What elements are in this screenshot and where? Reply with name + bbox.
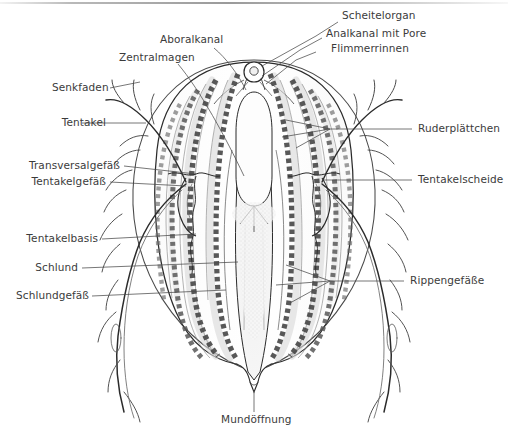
label-senkfaden: Senkfaden [52, 82, 106, 93]
label-schlundgefaess: Schlundgefäß [16, 290, 88, 301]
label-zentralmagen: Zentralmagen [119, 52, 195, 63]
senkfaden-l9 [102, 244, 120, 272]
senkfaden-r9 [388, 244, 406, 272]
label-scheitelorgan: Scheitelorgan [342, 10, 416, 21]
senkfaden-r8 [386, 214, 408, 240]
statocyst [250, 67, 258, 75]
tentakel-right-loop [387, 324, 397, 352]
senkfaden-l7 [104, 190, 126, 212]
senkfaden-l4 [120, 135, 148, 146]
label-mundoeffnung: Mundöffnung [221, 414, 292, 425]
leader-senkfaden [110, 82, 140, 88]
label-tentakelscheide: Tentakelscheide [418, 174, 503, 185]
label-tentakel: Tentakel [44, 117, 106, 128]
senkfaden-l6 [106, 170, 132, 190]
figure-canvas: Aboralkanal Zentralmagen Scheitelorgan A… [0, 0, 508, 445]
label-aboralkanal: Aboralkanal [160, 34, 223, 45]
label-schlund: Schlund [26, 262, 78, 273]
stomach-base-stipple [232, 202, 276, 226]
senkfaden-r13 [368, 392, 384, 422]
senkfaden-l8 [100, 214, 122, 240]
label-rippengefaesse: Rippengefäße [410, 275, 484, 286]
ctenophore-illustration [0, 0, 508, 445]
senkfaden-l13 [124, 392, 140, 422]
label-tentakelgefaess: Tentakelgefäß [22, 176, 106, 187]
senkfaden-r10 [390, 280, 402, 310]
central-stomach-zentralmagen [236, 92, 272, 206]
senkfaden-l1 [133, 80, 140, 110]
senkfaden-r1 [368, 80, 375, 110]
label-analkanal-mit-pore: Analkanal mit Pore [326, 28, 426, 39]
label-transversalgefaess: Transversalgefäß [16, 160, 120, 171]
label-ruderplaettchen: Ruderplättchen [418, 123, 500, 134]
senkfaden-r4 [360, 135, 388, 146]
label-flimmerrinnen: Flimmerrinnen [331, 43, 409, 54]
senkfaden-r3 [354, 94, 357, 124]
senkfaden-r7 [382, 190, 404, 212]
label-tentakelbasis: Tentakelbasis [22, 233, 98, 244]
senkfaden-l3 [151, 94, 154, 124]
tentakel-left-loop [111, 324, 121, 352]
